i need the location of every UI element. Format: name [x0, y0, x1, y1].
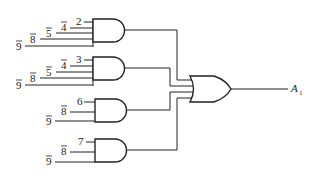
input-label: 8 [61, 105, 67, 117]
input-label: 8 [30, 33, 36, 45]
input-label: 9 [16, 79, 22, 91]
and-gate-2: 3 4 5 8 9 [16, 53, 125, 91]
input-label: 9 [46, 115, 52, 127]
and-gate-4: 7 8 9 [46, 135, 127, 167]
input-label: 4 [61, 59, 67, 71]
input-label: 5 [46, 66, 52, 78]
or-gate [190, 76, 288, 102]
input-label: 8 [61, 145, 67, 157]
input-label: 5 [46, 27, 52, 39]
input-label: 2 [76, 15, 82, 27]
input-label: 7 [78, 135, 84, 147]
input-label: 3 [76, 53, 82, 65]
and-gate-1: 2 4 5 8 9 [16, 15, 125, 52]
input-label: 6 [77, 95, 83, 107]
logic-circuit-diagram: 2 4 5 8 9 3 4 5 8 9 6 8 9 [0, 0, 316, 184]
input-label: 9 [16, 40, 22, 52]
interconnect-wires [124, 30, 193, 150]
input-label: 4 [61, 21, 67, 33]
and-gate-3: 6 8 9 [46, 95, 127, 127]
output-label: A [290, 82, 298, 94]
input-label: 9 [46, 155, 52, 167]
output-subscript: 1 [299, 89, 303, 97]
input-label: 8 [30, 72, 36, 84]
